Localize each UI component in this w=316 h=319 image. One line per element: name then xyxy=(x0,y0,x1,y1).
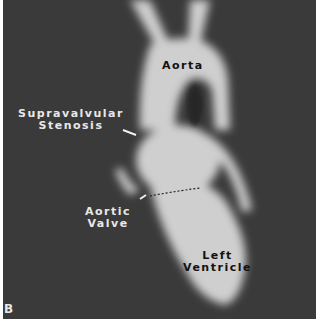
angiogram-figure: Aorta Supravalvular Stenosis Aortic Valv… xyxy=(0,0,316,319)
angiogram-image xyxy=(0,0,316,319)
label-left-ventricle-line2: Ventricle xyxy=(183,262,252,274)
label-left-ventricle: Left Ventricle xyxy=(183,250,252,274)
label-supravalvular-stenosis: Supravalvular Stenosis xyxy=(18,108,124,132)
label-aortic-valve-line2: Valve xyxy=(85,218,131,230)
label-supravalvular-line2: Stenosis xyxy=(18,120,124,132)
panel-letter: B xyxy=(4,303,15,315)
label-aorta: Aorta xyxy=(162,60,204,72)
label-aortic-valve: Aortic Valve xyxy=(85,206,131,230)
